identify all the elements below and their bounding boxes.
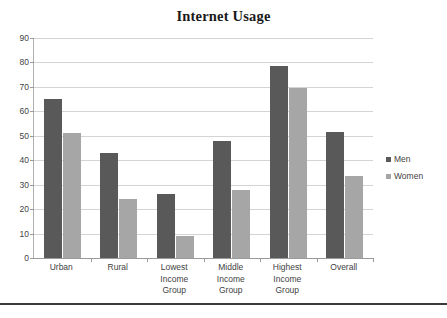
y-axis-label-80: 80 xyxy=(3,58,29,67)
bar-group xyxy=(260,38,317,258)
legend-item-women[interactable]: Women xyxy=(386,168,423,185)
footer-divider xyxy=(0,303,447,305)
y-axis-label-50: 50 xyxy=(3,132,29,141)
y-axis-label-30: 30 xyxy=(3,180,29,189)
men-color-swatch xyxy=(386,157,391,162)
bar-men xyxy=(326,132,344,258)
legend-item-men[interactable]: Men xyxy=(386,151,423,168)
bar-women xyxy=(119,199,137,258)
x-axis-label-line: Urban xyxy=(33,262,90,274)
bar-men xyxy=(270,66,288,258)
x-axis-label: HighestIncomeGroup xyxy=(259,262,316,297)
bar-women xyxy=(63,133,81,258)
x-axis-label-line: Rural xyxy=(90,262,147,274)
bar-group xyxy=(91,38,148,258)
legend-label: Women xyxy=(394,172,423,181)
bar-men xyxy=(157,194,175,258)
y-axis-label-40: 40 xyxy=(3,156,29,165)
y-axis-label-60: 60 xyxy=(3,107,29,116)
y-axis-label-0: 0 xyxy=(3,254,29,263)
bar-group xyxy=(147,38,204,258)
bar-group xyxy=(34,38,91,258)
x-axis-label-line: Income xyxy=(203,274,260,286)
x-axis-label: MiddleIncomeGroup xyxy=(203,262,260,297)
x-axis-label-line: Group xyxy=(203,285,260,297)
x-axis-label-line: Group xyxy=(146,285,203,297)
y-axis-label-70: 70 xyxy=(3,83,29,92)
bar-women xyxy=(289,88,307,258)
x-axis-label-line: Group xyxy=(259,285,316,297)
y-axis: 0102030405060708090 xyxy=(0,38,29,258)
x-axis-label: LowestIncomeGroup xyxy=(146,262,203,297)
plot-area xyxy=(33,38,373,258)
x-axis-label: Urban xyxy=(33,262,90,274)
women-color-swatch xyxy=(386,174,391,179)
x-tick xyxy=(373,258,374,262)
y-axis-label-90: 90 xyxy=(3,34,29,43)
x-axis-label-line: Middle xyxy=(203,262,260,274)
bar-group xyxy=(317,38,374,258)
bars-layer xyxy=(34,38,373,258)
bar-women xyxy=(232,190,250,258)
chart-legend: MenWomen xyxy=(386,151,423,185)
x-axis-label-line: Income xyxy=(259,274,316,286)
page-title: Internet Usage xyxy=(0,8,447,25)
y-axis-label-10: 10 xyxy=(3,229,29,238)
x-axis-label: Rural xyxy=(90,262,147,274)
bar-men xyxy=(213,141,231,258)
bar-men xyxy=(44,99,62,258)
x-axis-label-line: Lowest xyxy=(146,262,203,274)
bar-group xyxy=(204,38,261,258)
x-axis-label: Overall xyxy=(316,262,373,274)
bar-women xyxy=(345,176,363,258)
y-axis-label-20: 20 xyxy=(3,205,29,214)
x-axis-label-line: Overall xyxy=(316,262,373,274)
x-axis-label-line: Highest xyxy=(259,262,316,274)
legend-label: Men xyxy=(394,155,411,164)
y-tick-0 xyxy=(30,258,34,259)
x-axis-label-line: Income xyxy=(146,274,203,286)
bar-men xyxy=(100,153,118,258)
bar-women xyxy=(176,236,194,258)
chart-page: Internet Usage 0102030405060708090 Urban… xyxy=(0,0,447,318)
